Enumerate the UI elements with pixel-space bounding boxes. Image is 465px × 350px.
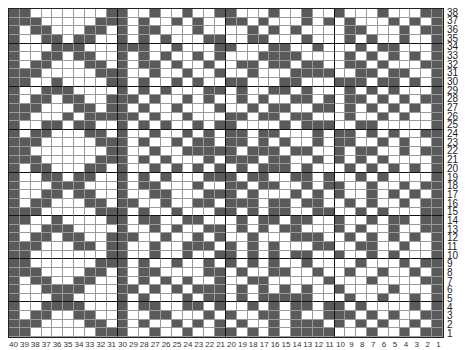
- grid-cell: [85, 113, 96, 122]
- grid-cell: [42, 35, 53, 44]
- grid-cell: [42, 173, 53, 182]
- grid-cell: [63, 104, 74, 113]
- grid-cell: [128, 121, 139, 130]
- grid-cell: [226, 35, 237, 44]
- grid-cell: [139, 35, 150, 44]
- grid-cell: [107, 69, 118, 78]
- grid-cell: [226, 61, 237, 70]
- grid-cell: [335, 26, 346, 35]
- grid-cell: [150, 156, 161, 165]
- grid-cell: [20, 104, 31, 113]
- grid-cell: [9, 268, 20, 277]
- grid-cell: [31, 251, 42, 260]
- grid-cell: [226, 233, 237, 242]
- grid-cell: [139, 113, 150, 122]
- grid-cell: [9, 302, 20, 311]
- grid-cell: [20, 121, 31, 130]
- column-label: 40: [8, 340, 19, 350]
- grid-cell: [432, 87, 443, 96]
- grid-cell: [313, 156, 324, 165]
- grid-cell: [367, 199, 378, 208]
- grid-cell: [161, 147, 172, 156]
- grid-cell: [85, 130, 96, 139]
- grid-cell: [96, 104, 107, 113]
- grid-cell: [20, 259, 31, 268]
- grid-cell: [248, 259, 259, 268]
- grid-cell: [280, 147, 291, 156]
- grid-cell: [204, 44, 215, 53]
- grid-cell: [139, 277, 150, 286]
- grid-cell: [335, 35, 346, 44]
- grid-cell: [172, 259, 183, 268]
- grid-cell: [139, 61, 150, 70]
- grid-cell: [324, 87, 335, 96]
- grid-cell: [128, 311, 139, 320]
- grid-cell: [107, 9, 118, 18]
- grid-cell: [31, 320, 42, 329]
- grid-cell: [421, 173, 432, 182]
- grid-cell: [161, 130, 172, 139]
- grid-cell: [161, 44, 172, 53]
- grid-cell: [313, 138, 324, 147]
- grid-cell: [63, 182, 74, 191]
- grid-cell: [85, 121, 96, 130]
- grid-cell: [226, 121, 237, 130]
- grid-cell: [183, 182, 194, 191]
- grid-cell: [313, 147, 324, 156]
- grid-cell: [215, 44, 226, 53]
- grid-cell: [128, 130, 139, 139]
- grid-cell: [259, 113, 270, 122]
- grid-cell: [161, 285, 172, 294]
- grid-cell: [150, 199, 161, 208]
- grid-cell: [269, 225, 280, 234]
- grid-cell: [269, 121, 280, 130]
- grid-cell: [9, 285, 20, 294]
- grid-cell: [128, 104, 139, 113]
- grid-cell: [52, 138, 63, 147]
- grid-cell: [139, 199, 150, 208]
- grid-cell: [400, 182, 411, 191]
- grid-cell: [324, 259, 335, 268]
- grid-cell: [291, 225, 302, 234]
- grid-cell: [183, 233, 194, 242]
- grid-cell: [42, 147, 53, 156]
- pattern-grid: [8, 8, 444, 338]
- grid-cell: [226, 87, 237, 96]
- grid-cell: [345, 251, 356, 260]
- grid-cell: [9, 18, 20, 27]
- grid-cell: [107, 251, 118, 260]
- grid-cell: [31, 225, 42, 234]
- grid-cell: [20, 225, 31, 234]
- grid-cell: [20, 182, 31, 191]
- grid-cell: [367, 78, 378, 87]
- grid-cell: [63, 52, 74, 61]
- grid-cell: [193, 44, 204, 53]
- grid-cell: [183, 18, 194, 27]
- grid-cell: [389, 156, 400, 165]
- grid-cell: [259, 242, 270, 251]
- grid-cell: [324, 104, 335, 113]
- grid-cell: [139, 233, 150, 242]
- grid-cell: [410, 216, 421, 225]
- grid-cell: [42, 216, 53, 225]
- grid-cell: [85, 199, 96, 208]
- grid-cell: [313, 251, 324, 260]
- grid-cell: [204, 277, 215, 286]
- grid-cell: [226, 69, 237, 78]
- grid-cell: [356, 242, 367, 251]
- grid-cell: [356, 26, 367, 35]
- grid-cell: [302, 44, 313, 53]
- grid-cell: [150, 225, 161, 234]
- grid-cell: [193, 182, 204, 191]
- grid-cell: [237, 52, 248, 61]
- grid-cell: [20, 69, 31, 78]
- grid-cell: [248, 164, 259, 173]
- grid-cell: [259, 199, 270, 208]
- grid-cell: [172, 216, 183, 225]
- grid-cell: [107, 173, 118, 182]
- grid-cell: [20, 320, 31, 329]
- grid-cell: [52, 9, 63, 18]
- grid-cell: [400, 320, 411, 329]
- grid-cell: [52, 259, 63, 268]
- grid-cell: [139, 251, 150, 260]
